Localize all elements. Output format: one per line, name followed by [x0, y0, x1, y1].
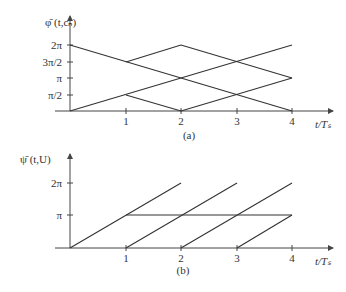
- xtick-b: 2: [178, 252, 184, 264]
- xtick-a: 2: [178, 115, 184, 127]
- trellis-paths-a: [70, 45, 292, 111]
- ytick-a: 3π/2: [42, 56, 62, 68]
- ytick-b: 2π: [51, 177, 63, 189]
- xtick-b: 4: [289, 252, 295, 264]
- xtick-b: 3: [234, 252, 240, 264]
- ytick-b: π: [56, 209, 62, 221]
- panel-a: φ̄ (t,cₙ) 2π 3π/2 π π/2 1 2 3 4 t/Tₛ (a): [42, 16, 333, 142]
- x-axis-label-b: t/Tₛ: [315, 255, 332, 267]
- xtick-a: 4: [289, 115, 295, 127]
- x-axis-label-a: t/Tₛ: [315, 118, 332, 130]
- phase-trellis-diagram: φ̄ (t,cₙ) 2π 3π/2 π π/2 1 2 3 4 t/Tₛ (a)…: [0, 0, 346, 292]
- y-axis-label-a: φ̄ (t,cₙ): [45, 16, 76, 29]
- ytick-a: π: [56, 72, 62, 84]
- xtick-a: 1: [123, 115, 129, 127]
- y-axis-label-b: ψ̄ (t,U): [20, 153, 51, 166]
- caption-a: (a): [183, 129, 196, 142]
- panel-b: ψ̄ (t,U) 2π π 1 2 3 4 t/Tₛ (b): [20, 153, 333, 277]
- xtick-a: 3: [234, 115, 240, 127]
- caption-b: (b): [177, 264, 190, 277]
- xtick-b: 1: [123, 252, 129, 264]
- ytick-a: 2π: [51, 39, 63, 51]
- ytick-a: π/2: [48, 89, 62, 101]
- trellis-paths-b: [70, 183, 292, 248]
